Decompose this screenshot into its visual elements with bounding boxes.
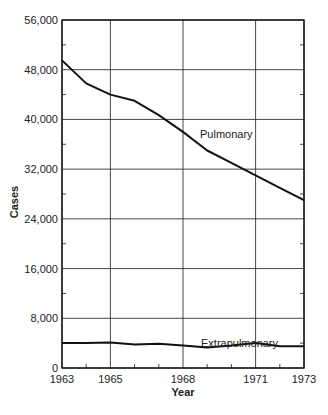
x-tick-label: 1968 — [171, 373, 195, 385]
y-axis-title: Cases — [8, 186, 20, 218]
y-tick-label: 32,000 — [24, 163, 58, 175]
x-tick-label: 1971 — [243, 373, 267, 385]
x-axis-tick-labels: 19631965196819711973 — [50, 373, 316, 385]
series-label-extrapulmonary: Extrapulmonary — [201, 337, 279, 349]
series-label-pulmonary: Pulmonary — [200, 128, 253, 140]
x-axis-title: Year — [171, 386, 195, 398]
y-tick-label: 16,000 — [24, 263, 58, 275]
y-axis-tick-labels: 08,00016,00024,00032,00040,00048,00056,0… — [24, 14, 58, 374]
x-tick-label: 1973 — [292, 373, 316, 385]
y-tick-label: 48,000 — [24, 64, 58, 76]
y-tick-label: 56,000 — [24, 14, 58, 26]
line-chart: 08,00016,00024,00032,00040,00048,00056,0… — [0, 0, 328, 415]
x-tick-label: 1963 — [50, 373, 74, 385]
y-tick-label: 8,000 — [30, 312, 58, 324]
x-tick-label: 1965 — [98, 373, 122, 385]
y-tick-label: 24,000 — [24, 213, 58, 225]
y-tick-label: 40,000 — [24, 113, 58, 125]
grid-lines — [62, 20, 304, 368]
